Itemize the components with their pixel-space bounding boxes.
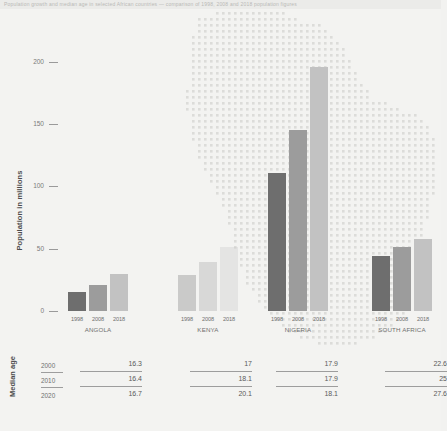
bar <box>68 292 86 311</box>
bar <box>220 247 238 311</box>
x-tick-year-label: 2018 <box>310 316 328 322</box>
x-axis-country-label: NIGERIA <box>253 326 343 333</box>
x-axis-country-label: KENYA <box>163 326 253 333</box>
bar <box>372 256 390 311</box>
median-age-value: 18.1 <box>163 375 252 382</box>
x-tick-year-label: 1998 <box>68 316 86 322</box>
y-tick-label: 50 <box>0 245 44 252</box>
median-age-cell-rule <box>385 386 447 387</box>
median-age-value: 20.1 <box>163 390 252 397</box>
x-tick-year-label: 2018 <box>110 316 128 322</box>
y-tick-mark <box>49 124 58 125</box>
x-tick-year-label: 1998 <box>178 316 196 322</box>
median-age-row-label: Median age <box>8 346 17 408</box>
median-age-row-rule <box>41 372 63 373</box>
y-tick-mark <box>49 186 58 187</box>
median-age-value: 16.7 <box>53 390 142 397</box>
median-age-cell-rule <box>276 386 338 387</box>
bar <box>199 262 217 311</box>
bar <box>268 173 286 311</box>
x-tick-year-label: 2008 <box>199 316 217 322</box>
median-age-value: 16.3 <box>53 360 142 367</box>
y-tick-mark <box>49 249 58 250</box>
median-age-cell-rule <box>190 386 252 387</box>
x-tick-year-label: 2008 <box>289 316 307 322</box>
x-tick-year-label: 2008 <box>89 316 107 322</box>
x-axis-country-label: SOUTH AFRICA <box>357 326 447 333</box>
median-age-cell-rule <box>276 371 338 372</box>
median-age-value: 16.4 <box>53 375 142 382</box>
y-tick-label: 100 <box>0 182 44 189</box>
bar <box>178 275 196 311</box>
y-tick-mark <box>49 62 58 63</box>
median-age-value: 17.9 <box>250 375 338 382</box>
y-tick-label: 0 <box>0 307 44 314</box>
bar <box>393 247 411 311</box>
median-age-value: 17 <box>163 360 252 367</box>
y-tick-label: 150 <box>0 120 44 127</box>
median-age-value: 17.9 <box>250 360 338 367</box>
y-tick-label: 200 <box>0 58 44 65</box>
median-age-cell-rule <box>385 371 447 372</box>
median-age-cell-rule <box>80 386 142 387</box>
median-age-value: 25 <box>360 375 447 382</box>
median-age-value: 27.6 <box>360 390 447 397</box>
bar <box>110 274 128 311</box>
bar <box>289 130 307 311</box>
y-tick-mark <box>49 311 58 312</box>
x-tick-year-label: 1998 <box>372 316 390 322</box>
x-tick-year-label: 2018 <box>220 316 238 322</box>
x-axis-country-label: ANGOLA <box>53 326 143 333</box>
median-age-row-rule <box>41 387 63 388</box>
median-age-cell-rule <box>80 371 142 372</box>
bar <box>414 239 432 311</box>
x-tick-year-label: 2008 <box>393 316 411 322</box>
median-age-value: 18.1 <box>250 390 338 397</box>
median-age-cell-rule <box>190 371 252 372</box>
median-age-value: 22.6 <box>360 360 447 367</box>
bar <box>89 285 107 311</box>
bar <box>310 67 328 311</box>
x-tick-year-label: 1998 <box>268 316 286 322</box>
x-tick-year-label: 2018 <box>414 316 432 322</box>
